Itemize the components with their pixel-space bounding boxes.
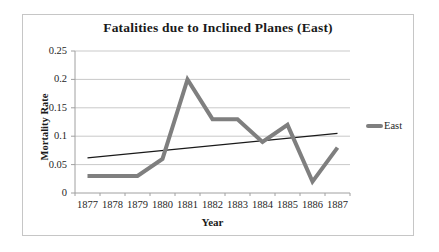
y-tick-label: 0.05 (49, 158, 67, 172)
series-line-east (88, 79, 338, 181)
page: { "chart_data": { "type": "line", "title… (0, 0, 439, 252)
legend-label: East (384, 119, 402, 133)
chart-title: Fatalities due to Inclined Planes (East) (23, 20, 413, 36)
chart-frame: Fatalities due to Inclined Planes (East)… (22, 14, 414, 236)
legend: East (366, 119, 402, 133)
y-tick-label: 0.25 (49, 44, 67, 58)
x-tick-label: 1887 (321, 198, 355, 211)
x-axis-title: Year (75, 216, 350, 228)
y-tick-label: 0.15 (49, 101, 67, 115)
y-tick-label: 0.1 (54, 129, 67, 143)
y-tick-label: 0 (62, 186, 67, 200)
legend-east-line-swatch (366, 124, 383, 128)
y-tick-label: 0.2 (54, 72, 67, 86)
